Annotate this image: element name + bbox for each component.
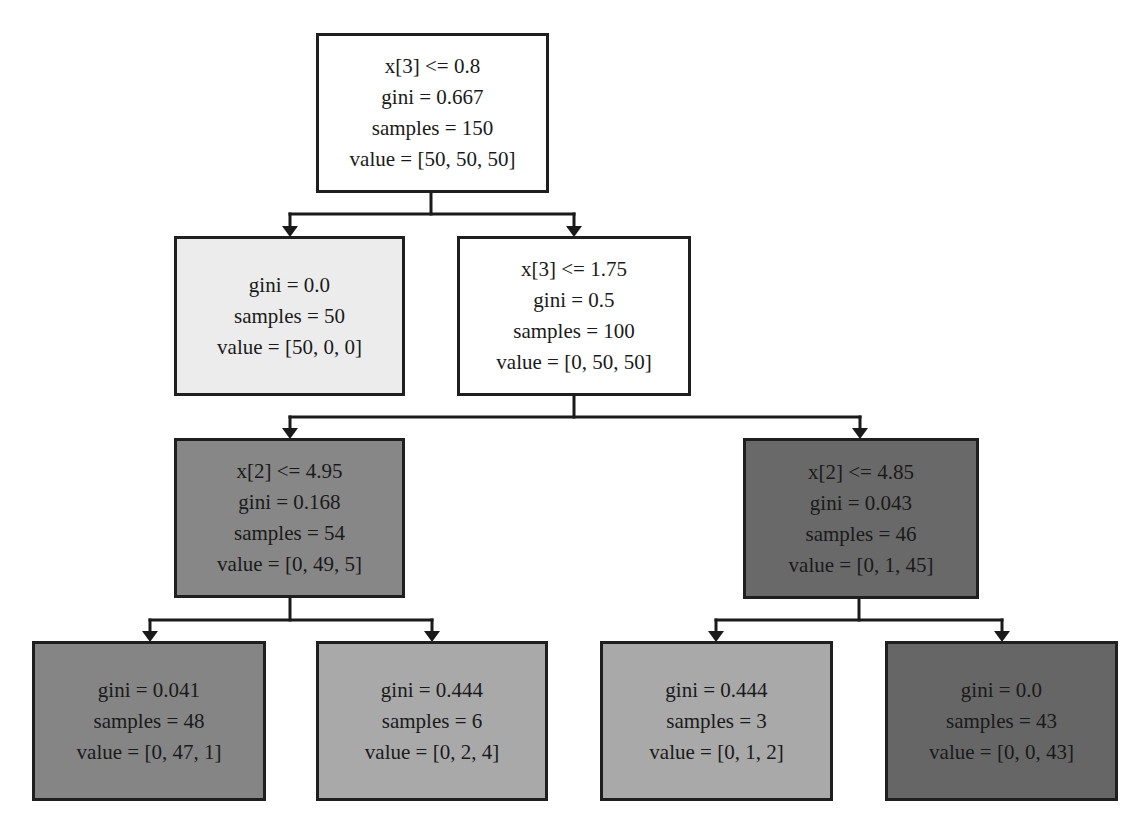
node-value: value = [0, 1, 2] bbox=[649, 737, 783, 768]
tree-node-root: x[3] <= 0.8 gini = 0.667 samples = 150 v… bbox=[316, 33, 549, 193]
node-gini: gini = 0.0 bbox=[961, 675, 1042, 706]
node-gini: gini = 0.0 bbox=[249, 270, 330, 301]
node-samples: samples = 150 bbox=[372, 113, 494, 144]
node-split-condition: x[3] <= 0.8 bbox=[385, 51, 480, 82]
decision-tree-diagram: x[3] <= 0.8 gini = 0.667 samples = 150 v… bbox=[0, 0, 1147, 836]
node-value: value = [0, 1, 45] bbox=[789, 550, 934, 581]
tree-node-split-x3-1.75: x[3] <= 1.75 gini = 0.5 samples = 100 va… bbox=[457, 236, 691, 396]
node-split-condition: x[2] <= 4.85 bbox=[808, 457, 914, 488]
node-value: value = [50, 0, 0] bbox=[217, 332, 362, 363]
node-samples: samples = 48 bbox=[94, 706, 205, 737]
node-gini: gini = 0.5 bbox=[533, 285, 614, 316]
node-samples: samples = 100 bbox=[513, 316, 635, 347]
node-samples: samples = 6 bbox=[382, 706, 483, 737]
node-samples: samples = 3 bbox=[666, 706, 767, 737]
tree-node-split-x2-4.95: x[2] <= 4.95 gini = 0.168 samples = 54 v… bbox=[174, 438, 405, 598]
node-gini: gini = 0.444 bbox=[381, 675, 483, 706]
tree-node-leaf-48: gini = 0.041 samples = 48 value = [0, 47… bbox=[32, 641, 266, 801]
tree-node-leaf-class0: gini = 0.0 samples = 50 value = [50, 0, … bbox=[174, 236, 405, 396]
node-samples: samples = 50 bbox=[234, 301, 345, 332]
node-samples: samples = 54 bbox=[234, 518, 345, 549]
node-gini: gini = 0.043 bbox=[810, 488, 912, 519]
node-samples: samples = 46 bbox=[806, 519, 917, 550]
node-split-condition: x[3] <= 1.75 bbox=[521, 254, 627, 285]
node-value: value = [0, 49, 5] bbox=[217, 549, 362, 580]
tree-node-split-x2-4.85: x[2] <= 4.85 gini = 0.043 samples = 46 v… bbox=[743, 438, 979, 599]
tree-node-leaf-6: gini = 0.444 samples = 6 value = [0, 2, … bbox=[316, 641, 548, 801]
node-gini: gini = 0.041 bbox=[98, 675, 200, 706]
node-split-condition: x[2] <= 4.95 bbox=[237, 456, 343, 487]
node-value: value = [0, 2, 4] bbox=[365, 737, 499, 768]
node-gini: gini = 0.444 bbox=[665, 675, 767, 706]
node-value: value = [0, 50, 50] bbox=[496, 347, 651, 378]
node-gini: gini = 0.667 bbox=[381, 82, 483, 113]
node-gini: gini = 0.168 bbox=[238, 487, 340, 518]
node-samples: samples = 43 bbox=[946, 706, 1057, 737]
tree-node-leaf-3: gini = 0.444 samples = 3 value = [0, 1, … bbox=[600, 641, 833, 801]
node-value: value = [0, 47, 1] bbox=[77, 737, 222, 768]
tree-node-leaf-43: gini = 0.0 samples = 43 value = [0, 0, 4… bbox=[885, 641, 1118, 801]
node-value: value = [50, 50, 50] bbox=[350, 144, 516, 175]
node-value: value = [0, 0, 43] bbox=[929, 737, 1074, 768]
